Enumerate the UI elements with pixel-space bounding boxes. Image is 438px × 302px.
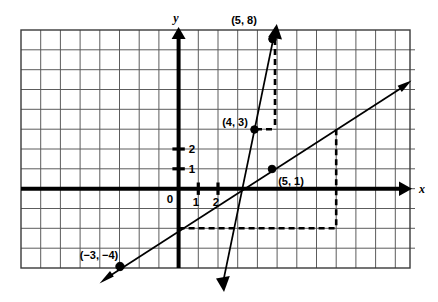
x-axis-tick-label-2: 2 (213, 196, 219, 208)
steep-line-arrowhead-lower (216, 276, 230, 292)
label-point-4-3: (4, 3) (222, 116, 248, 128)
axis-origin-label: 0 (167, 193, 173, 205)
grid (21, 30, 415, 268)
point-5-1 (268, 165, 276, 173)
label-point-5-8: (5, 8) (231, 14, 257, 26)
coordinate-plane-graph: (5, 8) (4, 3) (5, 1) (−3, −4) 0 1 2 1 2 … (0, 0, 438, 302)
steep-line-series (216, 24, 282, 292)
y-axis-tick-label-2: 2 (189, 143, 195, 155)
gentle-line (105, 85, 406, 279)
dashed-guides (179, 39, 338, 228)
x-axis-tick-label-1: 1 (193, 196, 200, 208)
y-axis-label: y (171, 11, 179, 25)
x-axis-label: x (418, 182, 425, 196)
steep-line (223, 33, 275, 285)
y-axis-arrowhead (172, 27, 186, 39)
label-point-minus3-minus4: (−3, −4) (80, 249, 119, 261)
point-minus3-minus4 (116, 262, 124, 270)
point-5-8 (269, 35, 277, 43)
figure-canvas: (5, 8) (4, 3) (5, 1) (−3, −4) 0 1 2 1 2 … (0, 0, 438, 302)
point-4-3 (251, 126, 259, 134)
gentle-line-arrowhead-lower-left (100, 271, 114, 284)
label-point-5-1: (5, 1) (278, 175, 304, 187)
y-axis-tick-label-1: 1 (189, 163, 196, 175)
plot-points (116, 35, 277, 270)
gentle-line-series (100, 81, 412, 284)
